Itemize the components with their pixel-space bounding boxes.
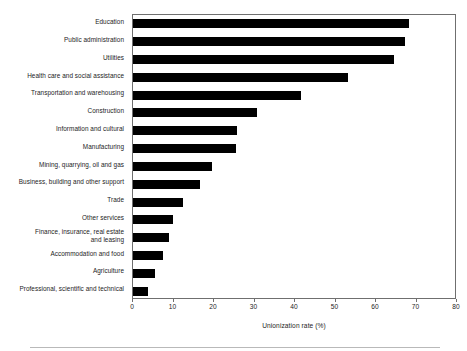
x-tick-label: 50 (320, 303, 350, 310)
x-axis-title: Unionization rate (%) (132, 322, 456, 329)
x-tick (375, 299, 376, 302)
x-tick-label: 80 (441, 303, 467, 310)
x-tick-label: 10 (158, 303, 188, 310)
bar (133, 19, 409, 28)
category-label: Construction (0, 107, 124, 115)
x-tick-label: 60 (360, 303, 390, 310)
bar (133, 287, 148, 296)
category-label: Transportation and warehousing (0, 89, 124, 97)
bar (133, 91, 301, 100)
unionization-rate-bar-chart: EducationPublic administrationUtilitiesH… (0, 0, 467, 351)
category-label: Trade (0, 196, 124, 204)
x-tick-label: 40 (279, 303, 309, 310)
plot-area (132, 14, 456, 299)
x-tick (132, 299, 133, 302)
category-label: Accommodation and food (0, 250, 124, 258)
x-tick-label: 70 (401, 303, 431, 310)
bar (133, 108, 257, 117)
category-label: Manufacturing (0, 143, 124, 151)
category-label: Public administration (0, 36, 124, 44)
x-tick-label: 20 (198, 303, 228, 310)
category-label: Professional, scientific and technical (0, 285, 124, 293)
category-label: Mining, quarrying, oil and gas (0, 161, 124, 169)
x-tick (335, 299, 336, 302)
x-tick (416, 299, 417, 302)
x-tick (456, 299, 457, 302)
bar (133, 55, 394, 64)
category-label: Information and cultural (0, 125, 124, 133)
bar (133, 215, 173, 224)
bar (133, 144, 236, 153)
bar (133, 126, 237, 135)
category-label: Health care and social assistance (0, 72, 124, 80)
bar (133, 73, 348, 82)
bar (133, 269, 155, 278)
bar (133, 233, 169, 242)
x-tick-label: 30 (239, 303, 269, 310)
bar (133, 251, 163, 260)
category-label: Business, building and other support (0, 178, 124, 186)
category-label: Other services (0, 214, 124, 222)
category-label: Finance, insurance, real estate and leas… (0, 228, 124, 243)
category-axis-labels: EducationPublic administrationUtilitiesH… (0, 14, 128, 299)
x-tick (213, 299, 214, 302)
bar (133, 198, 183, 207)
bar (133, 162, 212, 171)
category-label: Utilities (0, 54, 124, 62)
x-tick (173, 299, 174, 302)
x-tick (254, 299, 255, 302)
x-tick (294, 299, 295, 302)
footer-divider (30, 347, 440, 348)
bar (133, 180, 200, 189)
category-label: Education (0, 18, 124, 26)
bar (133, 37, 405, 46)
category-label: Agriculture (0, 267, 124, 275)
x-tick-label: 0 (117, 303, 147, 310)
